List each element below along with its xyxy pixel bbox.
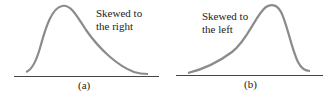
label-b: Skewed to the left [202, 10, 248, 36]
label-a-line1: Skewed to [96, 7, 142, 20]
skew-diagram [0, 0, 334, 95]
caption-a: (a) [78, 79, 90, 91]
label-a-line2: the right [96, 20, 142, 33]
label-a: Skewed to the right [96, 7, 142, 33]
label-b-line2: the left [202, 23, 248, 36]
caption-b: (b) [244, 78, 257, 90]
panel-b [176, 5, 323, 75]
label-b-line1: Skewed to [202, 10, 248, 23]
